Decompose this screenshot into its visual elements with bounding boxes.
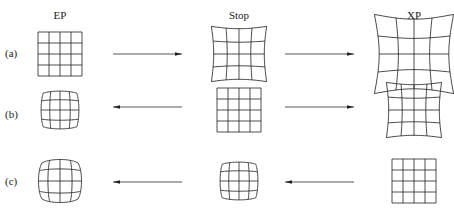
column-label-stop: Stop xyxy=(229,9,250,21)
row-label-c: (c) xyxy=(5,175,18,188)
grid-b-stop xyxy=(217,88,261,132)
grid-b-ep xyxy=(41,91,79,129)
grid-a-stop xyxy=(211,26,266,81)
grid-c-stop xyxy=(220,162,258,200)
column-label-ep: EP xyxy=(54,9,67,21)
grid-a-ep xyxy=(38,32,82,76)
distortion-diagram: EP Stop XP (a) (b) (c) xyxy=(0,0,454,213)
grid-c-ep xyxy=(39,160,82,203)
grid-b-xp xyxy=(386,82,441,137)
row-label-b: (b) xyxy=(5,108,18,121)
row-label-a: (a) xyxy=(5,47,18,60)
grid-a-xp xyxy=(374,14,453,93)
grid-c-xp xyxy=(392,159,436,203)
